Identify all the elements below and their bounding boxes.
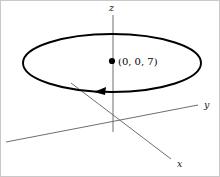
- y-axis-line: [6, 105, 198, 142]
- y-axis-label: y: [203, 99, 210, 110]
- figure-canvas: z y x (0, 0, 7): [0, 0, 220, 177]
- point-coordinate-label: (0, 0, 7): [118, 56, 158, 67]
- x-axis-line: [71, 83, 171, 159]
- point-marker-dot: [109, 58, 115, 64]
- x-axis-label: x: [177, 158, 183, 169]
- coordinate-diagram: z y x (0, 0, 7): [1, 1, 220, 177]
- z-axis-label: z: [108, 2, 115, 13]
